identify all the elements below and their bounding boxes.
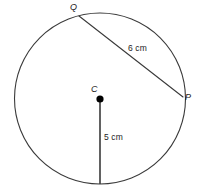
point-label-q: Q [70, 3, 77, 12]
circle-geometry-diagram: Q P C 6 cm 5 cm [0, 0, 201, 192]
point-label-p: P [185, 93, 191, 102]
radius-length-label: 5 cm [104, 133, 123, 142]
point-label-c: C [91, 85, 98, 94]
geometry-drawing-surface [0, 0, 201, 192]
chord-length-label: 6 cm [128, 44, 147, 53]
center-point-dot [96, 95, 103, 102]
